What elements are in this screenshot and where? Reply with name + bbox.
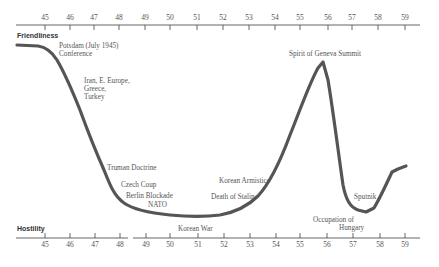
bottom-tick-label: 58 bbox=[376, 240, 384, 249]
annotation-potsdam: Potsdam (July 1945) bbox=[59, 42, 119, 50]
annotation-geneva-summit: Spirit of Geneva Summit bbox=[289, 50, 361, 58]
friendliness-label: Friendliness bbox=[17, 32, 58, 39]
annotation-nato: NATO bbox=[148, 201, 167, 209]
annotations: Potsdam (July 1945) Conference Iran, E. … bbox=[59, 42, 377, 233]
top-tick-label: 47 bbox=[90, 13, 98, 22]
chart-canvas: 45 46 47 48 49 50 51 52 53 54 55 56 57 5… bbox=[0, 0, 439, 267]
annotation-berlin-blockade: Berlin Blockade bbox=[126, 192, 173, 200]
top-tick-label: 57 bbox=[348, 13, 356, 22]
bottom-tick-label: 59 bbox=[401, 240, 409, 249]
annotation-truman-doctrine: Truman Doctrine bbox=[107, 164, 156, 172]
top-tick-label: 53 bbox=[245, 13, 253, 22]
annotation-iran: Iran, E. Europe, bbox=[84, 77, 130, 85]
bottom-tick-label: 51 bbox=[194, 240, 202, 249]
annotation-hungary: Hungary bbox=[339, 224, 365, 232]
top-tick-label: 55 bbox=[296, 13, 304, 22]
annotation-korean-armistice: Korean Armistice bbox=[219, 177, 270, 185]
top-tick-label: 58 bbox=[374, 13, 382, 22]
top-tick-label: 59 bbox=[401, 13, 409, 22]
bottom-tick-label: 54 bbox=[272, 240, 280, 249]
bottom-tick-label: 48 bbox=[116, 240, 124, 249]
top-tick-label: 51 bbox=[193, 13, 201, 22]
annotation-greece: Greece, bbox=[84, 85, 106, 93]
bottom-tick-label: 47 bbox=[91, 240, 99, 249]
annotation-turkey: Turkey bbox=[84, 93, 105, 101]
top-axis: 45 46 47 48 49 50 51 52 53 54 55 56 57 5… bbox=[16, 13, 420, 39]
annotation-czech-coup: Czech Coup bbox=[121, 181, 157, 189]
bottom-tick-label: 50 bbox=[166, 240, 174, 249]
bottom-tick-label: 55 bbox=[296, 240, 304, 249]
relations-curve bbox=[17, 45, 406, 217]
top-tick-label: 56 bbox=[324, 13, 332, 22]
hostility-label: Hostility bbox=[17, 225, 45, 233]
annotation-conference: Conference bbox=[59, 50, 92, 58]
top-tick-label: 54 bbox=[271, 13, 279, 22]
top-tick-label: 48 bbox=[115, 13, 123, 22]
top-tick-label: 50 bbox=[166, 13, 174, 22]
bottom-tick-label: 52 bbox=[220, 240, 228, 249]
annotation-sputnik: Sputnik bbox=[354, 193, 377, 201]
top-tick-label: 52 bbox=[219, 13, 227, 22]
annotation-occupation: Occupation of bbox=[313, 216, 355, 224]
bottom-tick-label: 56 bbox=[323, 240, 331, 249]
annotation-death-of-stalin: Death of Stalin bbox=[211, 193, 255, 201]
bottom-tick-label: 49 bbox=[142, 240, 150, 249]
top-tick-label: 46 bbox=[66, 13, 74, 22]
bottom-tick-label: 57 bbox=[349, 240, 357, 249]
top-tick-label: 45 bbox=[41, 13, 49, 22]
bottom-tick-label: 46 bbox=[66, 240, 74, 249]
bottom-tick-label: 53 bbox=[246, 240, 254, 249]
top-tick-label: 49 bbox=[141, 13, 149, 22]
annotation-korean-war: Korean War bbox=[178, 225, 213, 233]
bottom-tick-label: 45 bbox=[41, 240, 49, 249]
